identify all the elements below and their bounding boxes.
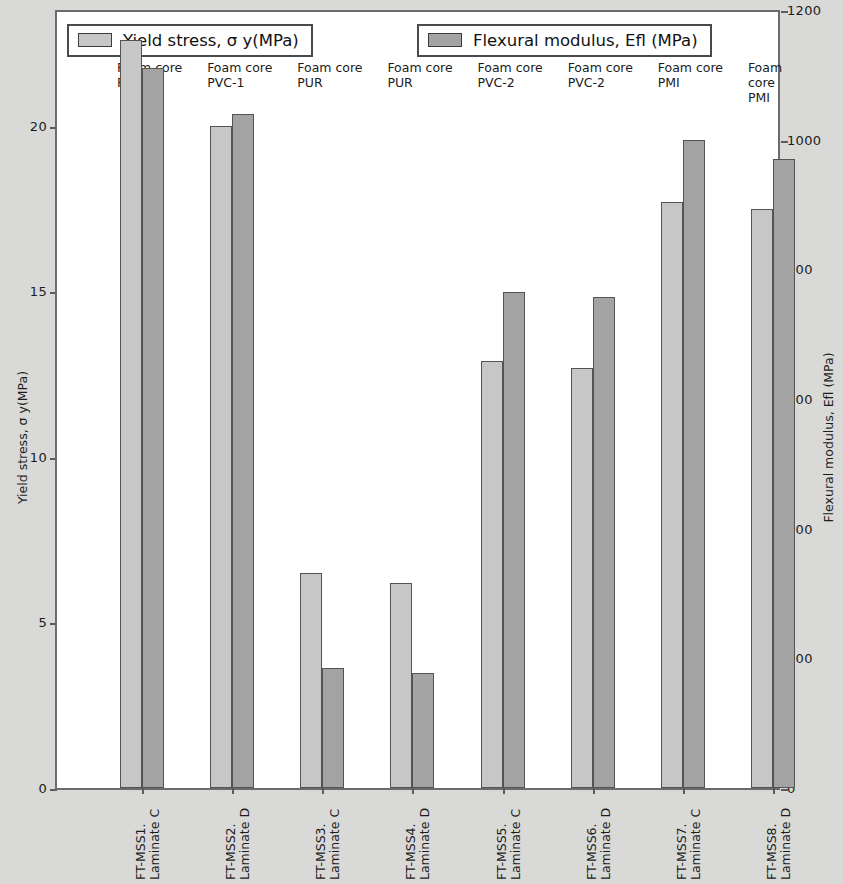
bar-flexural-modulus — [412, 673, 434, 788]
right-tick-mark — [781, 141, 788, 143]
x-axis-label: FT-MSS7. Laminate C — [675, 790, 703, 880]
bar-flexural-modulus — [232, 114, 254, 788]
x-axis-label: FT-MSS8. Laminate D — [765, 790, 793, 880]
right-axis-title: Flexural modulus, Efl (MPa) — [821, 323, 836, 553]
right-tick-label: 400 — [787, 522, 843, 537]
left-tick-label: 0 — [0, 781, 47, 796]
bar-yield-stress — [481, 361, 503, 788]
bar-yield-stress — [751, 209, 773, 788]
x-axis-label: FT-MSS3. Laminate C — [314, 790, 342, 880]
bars-layer — [57, 10, 778, 788]
left-tick-label: 20 — [0, 119, 47, 134]
bar-yield-stress — [120, 40, 142, 788]
x-axis-label: FT-MSS6. Laminate D — [585, 790, 613, 880]
bar-flexural-modulus — [773, 159, 795, 788]
left-tick-label: 15 — [0, 284, 47, 299]
right-tick-label: 600 — [787, 392, 843, 407]
bar-yield-stress — [571, 368, 593, 788]
x-axis-labels: FT-MSS1. Laminate CFT-MSS2. Laminate DFT… — [55, 792, 780, 884]
bar-yield-stress — [390, 583, 412, 788]
right-tick-label: 200 — [787, 651, 843, 666]
x-axis-label: FT-MSS4. Laminate D — [404, 790, 432, 880]
bar-flexural-modulus — [593, 297, 615, 788]
right-tick-label: 0 — [787, 781, 843, 796]
bar-yield-stress — [300, 573, 322, 788]
bar-flexural-modulus — [142, 68, 164, 788]
plot-area: Yield stress, σ y(MPa) Flexural modulus,… — [55, 10, 780, 790]
left-tick-label: 10 — [0, 450, 47, 465]
left-tick-label: 5 — [0, 615, 47, 630]
right-tick-label: 1000 — [787, 133, 843, 148]
right-tick-label: 800 — [787, 262, 843, 277]
x-axis-label: FT-MSS5. Laminate C — [495, 790, 523, 880]
bar-flexural-modulus — [322, 668, 344, 788]
bar-flexural-modulus — [503, 292, 525, 788]
x-axis-label: FT-MSS2. Laminate D — [224, 790, 252, 880]
right-tick-mark — [781, 11, 788, 13]
x-axis-label: FT-MSS1. Laminate C — [134, 790, 162, 880]
right-tick-label: 1200 — [787, 3, 843, 18]
left-axis-title: Yield stress, σ y(MPa) — [15, 338, 30, 538]
bar-yield-stress — [210, 126, 232, 788]
bar-yield-stress — [661, 202, 683, 788]
chart-screenshot: Yield stress, σ y(MPa) Flexural modulus,… — [0, 0, 843, 884]
bar-flexural-modulus — [683, 140, 705, 788]
